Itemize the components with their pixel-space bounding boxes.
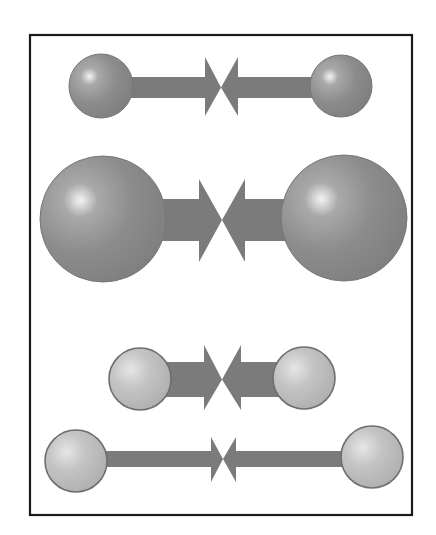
pair-2-large-dark [40,155,407,282]
pair-1-small-dark [69,54,372,118]
sphere-pairs [40,54,407,492]
left-sphere [45,430,107,492]
pair-3-close-light [109,345,335,410]
left-sphere [109,348,171,410]
force-diagram [0,0,436,535]
left-sphere [69,54,133,118]
left-sphere [40,156,166,282]
right-sphere [341,426,403,488]
right-sphere [273,347,335,409]
right-sphere [281,155,407,281]
right-sphere [310,55,372,117]
pair-4-far-light [45,426,403,492]
